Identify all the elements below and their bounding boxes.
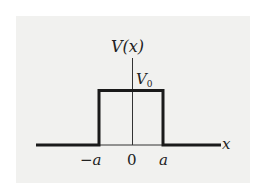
tick-label-neg-a: −a bbox=[80, 151, 102, 169]
potential-barrier-diagram: V(x) V0 x −a 0 a bbox=[0, 0, 260, 189]
tick-label-a: a bbox=[159, 151, 168, 169]
x-axis-label: x bbox=[222, 135, 231, 153]
potential-curve bbox=[36, 91, 221, 146]
tick-label-zero: 0 bbox=[127, 151, 137, 169]
barrier-height-label: V0 bbox=[136, 70, 153, 89]
y-axis-label: V(x) bbox=[111, 37, 144, 56]
